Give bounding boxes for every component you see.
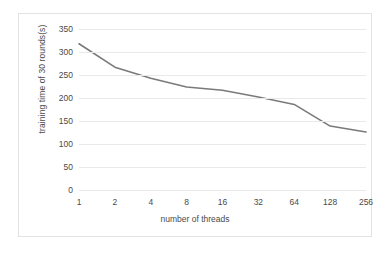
training-time-polyline [79, 44, 366, 132]
x-axis-title: number of threads [19, 214, 371, 224]
y-tick-label: 50 [37, 162, 73, 172]
gridline [79, 144, 366, 145]
gridline [79, 98, 366, 99]
y-tick-label: 300 [37, 47, 73, 57]
y-tick-label: 0 [37, 185, 73, 195]
gridline [79, 121, 366, 122]
data-series-line [79, 29, 366, 190]
gridline [79, 29, 366, 30]
x-tick-label: 16 [218, 197, 227, 207]
x-tick-label: 2 [113, 197, 118, 207]
y-tick-label: 100 [37, 139, 73, 149]
x-tick-label: 64 [290, 197, 299, 207]
gridline [79, 190, 366, 191]
y-tick-label: 200 [37, 93, 73, 103]
x-axis-tick-labels: 1248163264128256 [79, 197, 366, 211]
x-tick-label: 1 [77, 197, 82, 207]
x-tick-label: 32 [254, 197, 263, 207]
x-tick-label: 128 [323, 197, 337, 207]
x-tick-label: 8 [184, 197, 189, 207]
gridline [79, 52, 366, 53]
y-axis-tick-labels: 050100150200250300350 [37, 14, 73, 236]
x-tick-label: 4 [148, 197, 153, 207]
x-tick-label: 256 [359, 197, 373, 207]
y-tick-label: 250 [37, 70, 73, 80]
plot-area [79, 29, 366, 190]
gridline [79, 75, 366, 76]
y-tick-label: 150 [37, 116, 73, 126]
y-tick-label: 350 [37, 24, 73, 34]
chart-figure: training time of 30 rounds(s) 0501001502… [18, 13, 372, 237]
gridline [79, 167, 366, 168]
